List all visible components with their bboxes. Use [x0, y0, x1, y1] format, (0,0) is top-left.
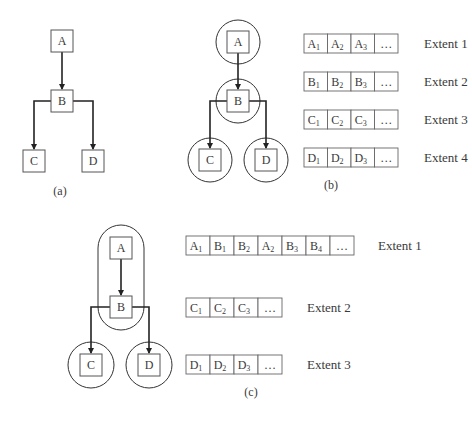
- node-b: B: [110, 296, 132, 318]
- extent-label: Extent 2: [307, 300, 351, 315]
- extent-row: A1A2A3…Extent 1: [304, 34, 468, 53]
- extent-row: A1B1B2A2B3B4…Extent 1: [186, 236, 422, 255]
- node-d: D: [82, 150, 104, 172]
- node-label: A: [234, 35, 243, 49]
- node-b: B: [227, 90, 249, 112]
- node-c: C: [199, 149, 221, 171]
- extent-row: D1D2D3…Extent 4: [304, 148, 468, 167]
- node-label: D: [89, 154, 98, 168]
- extent-list-c: A1B1B2A2B3B4…Extent 1C1C2C3…Extent 2D1D2…: [186, 236, 422, 374]
- node-label: B: [234, 94, 242, 108]
- caption-c: (c): [244, 385, 257, 399]
- extent-row: B1B2B3…Extent 2: [304, 72, 468, 91]
- record-label: …: [264, 358, 276, 372]
- node-label: D: [145, 358, 154, 372]
- node-d: D: [138, 354, 160, 376]
- extent-row: C1C2C3…Extent 2: [186, 298, 351, 317]
- record-label: …: [380, 37, 392, 51]
- node-label: A: [58, 34, 67, 48]
- extent-label: Extent 1: [378, 238, 422, 253]
- extent-label: Extent 1: [424, 36, 468, 51]
- node-b: B: [51, 90, 73, 112]
- record-label: …: [380, 113, 392, 127]
- edge-b-to-d: [132, 307, 149, 353]
- extent-label: Extent 3: [424, 112, 468, 127]
- node-c: C: [80, 354, 102, 376]
- extent-row: C1C2C3…Extent 3: [304, 110, 468, 129]
- extent-row: D1D2D3…Extent 3: [186, 355, 351, 374]
- node-label: C: [87, 358, 95, 372]
- record-label: …: [380, 75, 392, 89]
- node-a: A: [227, 31, 249, 53]
- edge-b-to-c: [210, 101, 227, 148]
- panel-c: A B C D A1B1B2A2B3B4…Extent 1C1C2C3…Exte…: [68, 225, 422, 399]
- extent-label: Extent 4: [424, 150, 468, 165]
- extent-label: Extent 2: [424, 74, 468, 89]
- node-a: A: [110, 237, 132, 259]
- node-c: C: [23, 150, 45, 172]
- node-d: D: [255, 149, 277, 171]
- extent-clustering-diagram: A B C D (a) A B: [0, 0, 472, 421]
- extent-list-b: A1A2A3…Extent 1B1B2B3…Extent 2C1C2C3…Ext…: [304, 34, 468, 167]
- record-label: …: [336, 239, 348, 253]
- node-label: D: [262, 153, 271, 167]
- node-label: C: [30, 154, 38, 168]
- node-a: A: [51, 30, 73, 52]
- extent-label: Extent 3: [307, 357, 351, 372]
- edge-b-to-d: [73, 101, 93, 149]
- caption-b: (b): [324, 178, 338, 192]
- record-label: …: [380, 151, 392, 165]
- node-label: A: [117, 241, 126, 255]
- node-label: C: [206, 153, 214, 167]
- node-label: B: [117, 300, 125, 314]
- panel-a: A B C D (a): [23, 30, 104, 198]
- caption-a: (a): [53, 184, 66, 198]
- edge-b-to-c: [34, 101, 51, 149]
- panel-b: A B C D A1A2A3…Extent 1B1B2B3…Extent 2C1…: [188, 20, 468, 192]
- node-label: B: [58, 94, 66, 108]
- edge-b-to-c: [91, 307, 110, 353]
- record-label: …: [264, 301, 276, 315]
- edge-b-to-d: [249, 101, 266, 148]
